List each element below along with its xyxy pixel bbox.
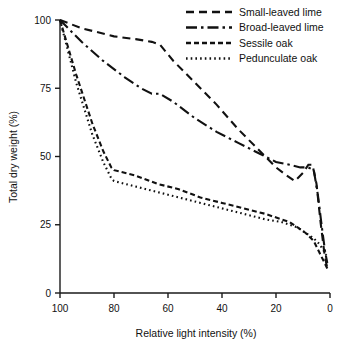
x-tick-label: 60	[162, 303, 174, 314]
legend-label: Small-leaved lime	[239, 6, 322, 18]
x-tick-label: 20	[270, 303, 282, 314]
line-chart: 0255075100 100806040200 Small-leaved lim…	[0, 0, 350, 355]
x-tick-label: 40	[216, 303, 228, 314]
chart-figure: 0255075100 100806040200 Small-leaved lim…	[0, 0, 350, 355]
y-tick-label: 0	[45, 288, 51, 299]
y-tick-label: 25	[40, 219, 52, 230]
y-tick-label: 100	[34, 15, 51, 26]
y-tick-label: 50	[40, 151, 52, 162]
chart-legend: Small-leaved limeBroad-leaved limeSessil…	[186, 6, 324, 65]
x-tick-label: 80	[108, 303, 120, 314]
x-tick-label: 100	[52, 303, 69, 314]
x-axis-title: Relative light intensity (%)	[136, 327, 257, 339]
y-tick-label: 75	[40, 83, 52, 94]
y-axis-ticks: 0255075100	[34, 15, 60, 299]
x-axis-ticks: 100806040200	[52, 293, 334, 314]
x-tick-label: 0	[327, 303, 333, 314]
legend-label: Pedunculate oak	[239, 52, 318, 64]
y-axis-title: Total dry weight (%)	[7, 111, 19, 203]
legend-label: Sessile oak	[239, 37, 293, 49]
legend-label: Broad-leaved lime	[239, 21, 324, 33]
